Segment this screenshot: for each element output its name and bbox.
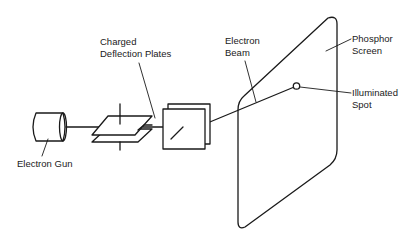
leader-phosphor-screen	[326, 39, 351, 51]
crt-diagram: Charged Deflection Plates Electron Beam …	[0, 0, 418, 244]
deflection-box	[163, 104, 210, 149]
label-deflection-plates-2: Deflection Plates	[100, 48, 172, 59]
leader-illuminated-spot	[300, 87, 351, 93]
label-electron-beam-2: Beam	[225, 47, 250, 58]
leader-deflection-plates	[139, 63, 155, 118]
electron-gun	[33, 113, 67, 141]
label-phosphor-screen-2: Screen	[352, 45, 382, 56]
phosphor-screen	[238, 17, 337, 228]
label-phosphor-screen-1: Phosphor	[352, 33, 393, 44]
illuminated-spot-marker	[293, 83, 299, 89]
label-electron-beam-1: Electron	[225, 35, 260, 46]
label-illuminated-spot-1: Illuminated	[352, 87, 398, 98]
box-front	[163, 109, 205, 149]
label-illuminated-spot-2: Spot	[352, 99, 372, 110]
label-electron-gun: Electron Gun	[17, 158, 72, 169]
label-deflection-plates-1: Charged	[100, 36, 136, 47]
leader-electron-beam	[245, 61, 256, 102]
deflection-plates	[92, 104, 152, 150]
